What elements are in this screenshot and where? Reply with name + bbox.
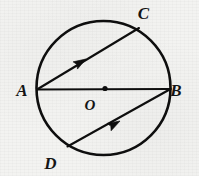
label-point-a: A (15, 81, 27, 100)
segment-chord-ac (37, 28, 139, 90)
center-point-dot (102, 86, 107, 91)
geometry-figure-canvas: Circle with center O, diameter AB and tw… (0, 0, 199, 176)
circle-diagram: Circle with center O, diameter AB and tw… (0, 0, 199, 176)
segment-chord-db (68, 89, 171, 147)
label-point-b: B (169, 81, 181, 100)
label-center-o: O (85, 97, 96, 113)
label-point-c: C (138, 4, 150, 23)
label-point-d: D (43, 154, 56, 173)
